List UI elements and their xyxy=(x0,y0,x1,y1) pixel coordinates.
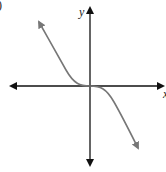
part-label: ) xyxy=(0,0,2,11)
curve-right xyxy=(90,86,138,148)
graph-canvas xyxy=(0,0,166,172)
function-graph: ) y x xyxy=(0,0,166,172)
x-axis-label: x xyxy=(163,88,166,100)
curve-left xyxy=(39,22,90,86)
y-axis-label: y xyxy=(79,6,84,18)
